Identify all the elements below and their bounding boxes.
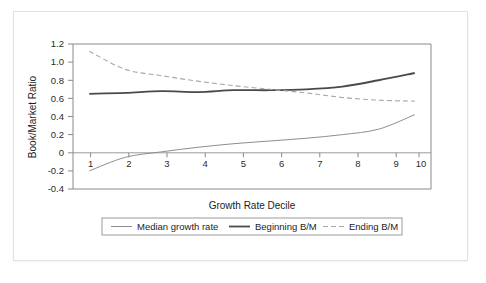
legend-label-beginning-bm: Beginning B/M [255, 221, 317, 232]
line-chart: 1.2 1.0 0.8 0.6 0.4 0.2 0 -0.2 -0.4 [14, 12, 469, 262]
x-tick-label: 3 [164, 158, 169, 169]
y-axis-ticks [68, 44, 73, 189]
y-tick-label: 1.0 [51, 56, 64, 67]
x-tick-label: 1 [88, 158, 93, 169]
x-tick-label: 2 [126, 158, 131, 169]
y-tick-labels: 1.2 1.0 0.8 0.6 0.4 0.2 0 -0.2 -0.4 [48, 38, 64, 194]
figure-root: 1.2 1.0 0.8 0.6 0.4 0.2 0 -0.2 -0.4 [0, 0, 486, 283]
y-tick-label: 0.4 [51, 111, 64, 122]
y-tick-label: -0.4 [48, 183, 64, 194]
x-tick-label: 9 [394, 158, 399, 169]
x-tick-label: 8 [355, 158, 360, 169]
x-tick-label: 5 [241, 158, 246, 169]
x-tick-label: 4 [203, 158, 208, 169]
legend: Median growth rate Beginning B/M Ending … [102, 218, 402, 235]
y-tick-label: 0.6 [51, 93, 64, 104]
legend-label-median-growth-rate: Median growth rate [137, 221, 218, 232]
x-tick-label: 6 [279, 158, 284, 169]
chart-panel: 1.2 1.0 0.8 0.6 0.4 0.2 0 -0.2 -0.4 [13, 11, 468, 261]
y-axis-title: Book/Market Ratio [27, 75, 38, 158]
series-median-growth-rate [89, 115, 414, 171]
series-beginning-bm [89, 73, 414, 94]
x-tick-label: 10 [416, 158, 427, 169]
y-tick-label: 1.2 [51, 38, 64, 49]
y-tick-label: 0.8 [51, 75, 64, 86]
legend-label-ending-bm: Ending B/M [349, 221, 398, 232]
y-tick-label: -0.2 [48, 165, 64, 176]
y-tick-label: 0.2 [51, 129, 64, 140]
x-axis-ticks [91, 153, 419, 158]
series-ending-bm [89, 51, 414, 101]
x-tick-label: 7 [317, 158, 322, 169]
x-axis-title: Growth Rate Decile [209, 200, 296, 211]
y-tick-label: 0 [59, 147, 64, 158]
x-tick-labels: 1 2 3 4 5 6 7 8 9 10 [88, 158, 426, 169]
